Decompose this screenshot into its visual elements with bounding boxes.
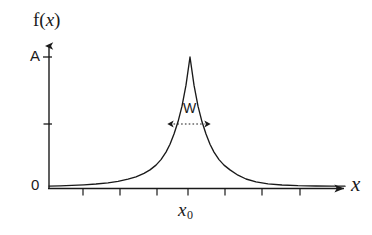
y-axis-title-paren-close: ) — [54, 9, 60, 30]
origin-label: 0 — [31, 177, 39, 192]
lorentzian-curve — [49, 57, 345, 186]
peak-center-subscript: 0 — [187, 208, 193, 222]
x-axis-ticks — [83, 189, 300, 196]
x-axis — [48, 189, 344, 196]
y-axis-title: f(x) — [33, 10, 60, 29]
y-axis — [43, 46, 52, 189]
width-marker-label: W — [183, 101, 196, 115]
peak-center-label: x0 — [178, 200, 193, 221]
amplitude-label: A — [30, 48, 40, 63]
peak-center-base: x — [178, 199, 186, 220]
x-axis-title: x — [351, 174, 360, 195]
y-axis-title-var: x — [46, 9, 54, 30]
figure-canvas: f(x) A 0 x0 x W — [0, 0, 372, 235]
